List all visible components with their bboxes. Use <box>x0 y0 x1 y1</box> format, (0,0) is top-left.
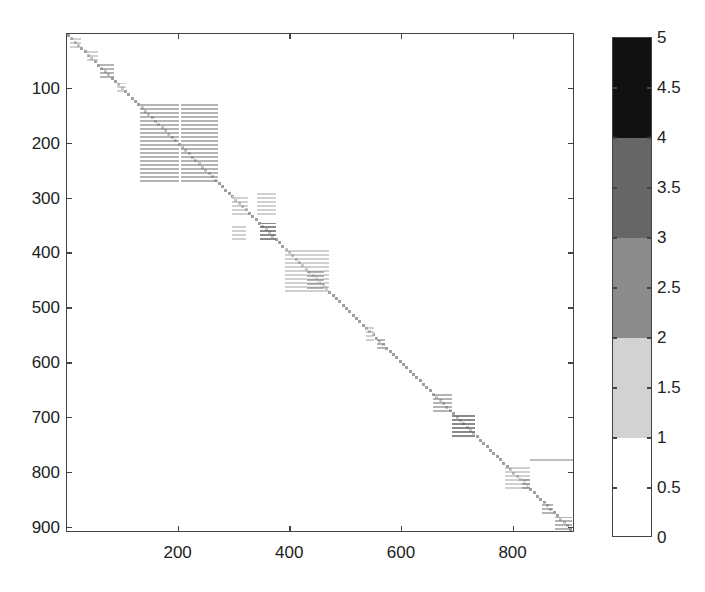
y-tick-label: 100 <box>10 80 60 97</box>
y-tick <box>568 143 574 145</box>
colorbar-tick <box>647 287 652 289</box>
matrix-block <box>257 193 277 215</box>
colorbar-tick <box>647 337 652 339</box>
colorbar-tick-label: 2.5 <box>657 279 681 296</box>
matrix-block <box>452 415 474 437</box>
colorbar-tick-label: 3 <box>657 229 666 246</box>
colorbar-tick-label: 4 <box>657 129 666 146</box>
matrix-block <box>366 327 374 341</box>
y-tick <box>568 417 574 419</box>
matrix-block <box>377 338 385 349</box>
colorbar-tick-label: 0 <box>657 529 666 546</box>
y-tick <box>66 88 72 90</box>
colorbar <box>612 37 652 537</box>
x-tick <box>289 33 291 39</box>
y-tick <box>568 472 574 474</box>
x-tick <box>178 526 180 532</box>
y-tick <box>568 307 574 309</box>
colorbar-tick-label: 2 <box>657 329 666 346</box>
y-tick <box>568 88 574 90</box>
matrix-block <box>100 64 114 78</box>
matrix-block <box>232 196 249 215</box>
colorbar-tick <box>647 187 652 189</box>
colorbar-tick <box>647 87 652 89</box>
y-tick-label: 400 <box>10 244 60 261</box>
y-tick <box>568 252 574 254</box>
y-tick-label: 600 <box>10 354 60 371</box>
y-tick <box>66 362 72 364</box>
y-tick <box>66 472 72 474</box>
colorbar-band <box>613 38 651 138</box>
x-tick <box>289 526 291 532</box>
y-tick <box>66 198 72 200</box>
x-tick-label: 800 <box>483 544 543 561</box>
y-tick-label: 800 <box>10 464 60 481</box>
y-tick <box>66 527 72 529</box>
colorbar-tick <box>612 287 617 289</box>
x-tick <box>401 526 403 532</box>
matrix-block <box>70 37 81 48</box>
y-tick-label: 200 <box>10 135 60 152</box>
colorbar-tick <box>647 387 652 389</box>
matrix-block <box>260 223 277 239</box>
off-diagonal-row <box>530 459 574 461</box>
colorbar-tick-label: 4.5 <box>657 79 681 96</box>
colorbar-tick <box>612 437 617 439</box>
y-tick <box>66 307 72 309</box>
colorbar-tick-label: 1 <box>657 429 666 446</box>
y-tick <box>66 143 72 145</box>
y-tick-label: 300 <box>10 190 60 207</box>
colorbar-tick <box>647 437 652 439</box>
colorbar-tick-label: 0.5 <box>657 479 681 496</box>
colorbar-band <box>613 238 651 338</box>
colorbar-tick <box>647 137 652 139</box>
matrix-block <box>117 83 125 91</box>
colorbar-tick <box>612 237 617 239</box>
x-tick <box>513 526 515 532</box>
x-tick <box>513 33 515 39</box>
matrix-block <box>87 50 98 61</box>
y-tick <box>568 198 574 200</box>
matrix-plot-area <box>66 33 574 532</box>
y-tick <box>568 527 574 529</box>
y-tick-label: 900 <box>10 519 60 536</box>
colorbar-tick <box>612 187 617 189</box>
colorbar-band <box>613 138 651 238</box>
x-tick <box>401 33 403 39</box>
y-tick-label: 700 <box>10 409 60 426</box>
x-tick-label: 400 <box>259 544 319 561</box>
colorbar-tick <box>647 487 652 489</box>
x-tick-label: 200 <box>148 544 208 561</box>
y-tick <box>66 252 72 254</box>
matrix-block <box>140 103 179 183</box>
matrix-block <box>307 270 324 289</box>
matrix-block <box>181 103 217 183</box>
diagonal-entry <box>573 531 574 532</box>
colorbar-band <box>613 338 651 438</box>
matrix-block <box>232 226 246 240</box>
y-tick-label: 500 <box>10 299 60 316</box>
colorbar-tick <box>612 87 617 89</box>
colorbar-tick <box>612 337 617 339</box>
y-tick <box>568 362 574 364</box>
y-tick <box>66 417 72 419</box>
colorbar-band <box>613 438 651 537</box>
colorbar-tick <box>612 387 617 389</box>
colorbar-tick <box>612 137 617 139</box>
colorbar-tick-label: 1.5 <box>657 379 681 396</box>
matrix-block <box>522 478 530 489</box>
colorbar-tick <box>647 237 652 239</box>
colorbar-tick-label: 3.5 <box>657 179 681 196</box>
colorbar-tick-label: 5 <box>657 29 666 46</box>
x-tick-label: 600 <box>371 544 431 561</box>
matrix-block <box>555 517 572 531</box>
matrix-block <box>433 393 453 412</box>
matrix-block <box>542 503 553 514</box>
colorbar-tick <box>612 487 617 489</box>
x-tick <box>178 33 180 39</box>
